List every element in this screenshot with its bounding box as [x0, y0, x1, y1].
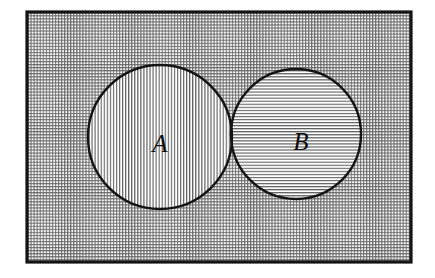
venn-diagram-figure: A B: [0, 0, 435, 278]
set-a-label: A: [150, 130, 168, 157]
set-b-label: B: [293, 128, 308, 155]
venn-diagram-canvas: A B: [0, 0, 435, 278]
